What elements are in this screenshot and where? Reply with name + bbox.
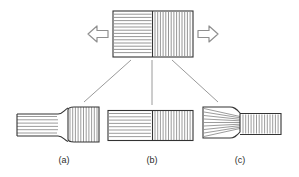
variant-c-vertical-hatch bbox=[243, 115, 278, 134]
variant-a-flare bbox=[58, 108, 68, 142]
leader-line-a bbox=[84, 60, 131, 102]
variant-c-horizontal-hatch bbox=[204, 109, 240, 137]
variant-c-group: (c) bbox=[203, 107, 281, 165]
variant-a-horizontal-hatch bbox=[17, 117, 58, 134]
variant-b-vertical-hatch bbox=[155, 111, 190, 140]
variant-b-label: (b) bbox=[147, 155, 158, 165]
tension-arrow-right bbox=[198, 26, 218, 42]
variant-c-label: (c) bbox=[235, 155, 246, 165]
variant-a-vertical-hatch bbox=[70, 107, 97, 142]
variant-b-outline bbox=[108, 111, 193, 141]
leader-lines-group bbox=[84, 60, 218, 105]
leader-line-c bbox=[172, 60, 218, 102]
variant-a-group: (a) bbox=[17, 107, 99, 165]
top-specimen-horizontal-hatch bbox=[114, 14, 152, 52]
variant-a-label: (a) bbox=[59, 155, 70, 165]
deformation-schematic-figure: (a) bbox=[0, 0, 299, 177]
tension-arrow-left bbox=[88, 26, 108, 42]
variant-b-group: (b) bbox=[108, 111, 193, 166]
variant-c-shank-outline bbox=[240, 114, 281, 135]
variant-b-horizontal-hatch bbox=[109, 114, 151, 137]
top-specimen-group bbox=[113, 11, 193, 57]
top-specimen-vertical-hatch bbox=[155, 12, 190, 56]
